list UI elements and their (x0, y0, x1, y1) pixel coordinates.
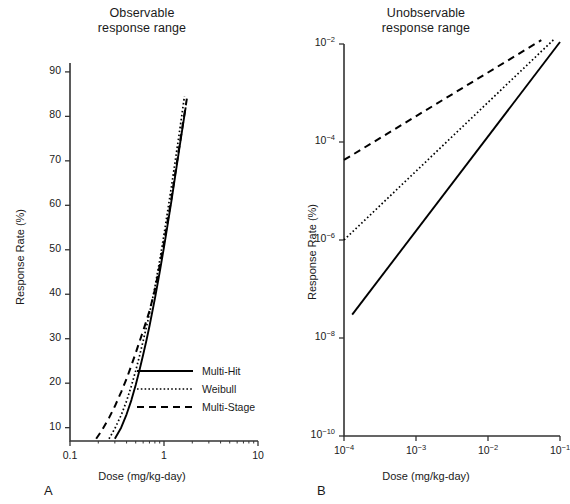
axis-tick-label: 10−2 (284, 36, 335, 48)
axis-tick-label: 40 (0, 286, 61, 298)
panel-a-letter: A (44, 483, 53, 498)
axis-tick-label: 70 (0, 153, 61, 165)
series-line-multi-hit (352, 42, 560, 315)
legend-label-multi-stage: Multi-Stage (202, 401, 255, 413)
axis-tick-label: 80 (0, 108, 61, 120)
axis-tick-label: 1 (161, 449, 167, 461)
panel-b: Unobservable response range Dose (mg/kg-… (284, 0, 568, 504)
legend-item-multi-stage: Multi-Stage (136, 398, 255, 416)
legend-swatch-dashed (136, 402, 194, 412)
axis-tick-label: 10−2 (478, 444, 498, 456)
legend-item-weibull: Weibull (136, 380, 255, 398)
axis-tick-label: 10−8 (284, 330, 335, 342)
axis-tick-label: 10−4 (284, 134, 335, 146)
legend: Multi-Hit Weibull Multi-Stage (136, 362, 255, 416)
axis-tick-label: 10 (0, 420, 61, 432)
axis-tick-label: 0.1 (63, 449, 78, 461)
axis-tick-label: 10−4 (334, 444, 354, 456)
legend-label-multi-hit: Multi-Hit (202, 365, 241, 377)
legend-swatch-dotted (136, 384, 194, 394)
axis-tick-label: 60 (0, 197, 61, 209)
axis-tick-label: 10−6 (284, 232, 335, 244)
axis-tick-label: 90 (0, 64, 61, 76)
panel-b-x-axis-label: Dose (mg/kg-day) (284, 470, 568, 482)
axis-tick-label: 10−10 (284, 428, 335, 440)
legend-item-multi-hit: Multi-Hit (136, 362, 255, 380)
axis-tick-label: 20 (0, 375, 61, 387)
panel-b-letter: B (317, 483, 326, 498)
axis-tick-label: 30 (0, 331, 61, 343)
legend-label-weibull: Weibull (202, 383, 236, 395)
panel-b-y-axis-label: Response Rate (%) (306, 204, 318, 300)
panel-a: Observable response range Dose (mg/kg-da… (0, 0, 284, 504)
axis-tick-label: 10−1 (550, 444, 570, 456)
axis-tick-label: 10 (252, 449, 264, 461)
series-line-multi-stage (344, 40, 541, 160)
axis-tick-label: 10−3 (406, 444, 426, 456)
legend-swatch-solid (136, 366, 194, 376)
panel-a-x-axis-label: Dose (mg/kg-day) (0, 470, 284, 482)
axis-tick-label: 50 (0, 242, 61, 254)
series-line-weibull (344, 38, 555, 240)
